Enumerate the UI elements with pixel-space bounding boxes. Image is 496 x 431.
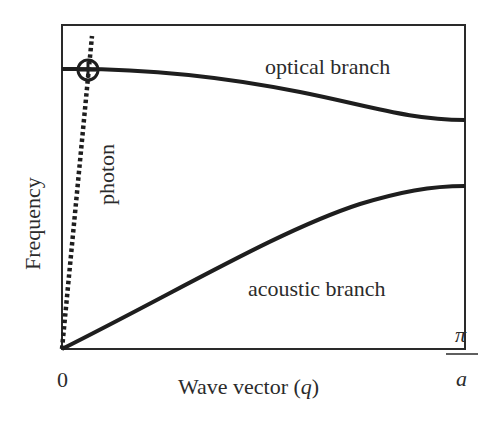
x-axis-label-text: Wave vector ( [178, 374, 301, 399]
dispersion-plot [0, 0, 496, 431]
x-end-numerator: π [455, 322, 466, 348]
photon-dispersion-line [62, 36, 92, 349]
x-end-denominator: a [456, 366, 467, 392]
x-axis-label-close: ) [312, 374, 319, 399]
x-origin-tick: 0 [57, 367, 68, 393]
y-axis-label: Frequency [20, 177, 46, 270]
acoustic-branch-label: acoustic branch [248, 276, 385, 302]
x-axis-label: Wave vector (q) [178, 374, 319, 400]
crossing-marker-icon [78, 60, 98, 80]
x-axis-variable: q [301, 374, 312, 399]
optical-branch-label: optical branch [265, 54, 390, 80]
optical-branch-curve [62, 69, 465, 120]
acoustic-branch-curve [62, 186, 465, 349]
photon-label: photon [94, 144, 120, 205]
